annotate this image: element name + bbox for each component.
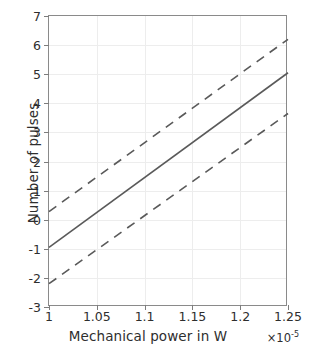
x-axis-multiplier: ×10-5: [267, 330, 299, 345]
data-lines: [49, 16, 288, 307]
x-axis-multiplier-exponent: -5: [291, 330, 299, 339]
x-axis-multiplier-base: ×10: [267, 331, 291, 345]
y-tick-label: 7: [33, 9, 41, 24]
x-tick-label: 1.25: [274, 309, 302, 324]
series-line-upper-confidence-bound: [49, 39, 288, 211]
y-tick-label: -2: [29, 270, 41, 285]
x-tick-label: 1.05: [83, 309, 111, 324]
y-tick-label: 0: [33, 212, 41, 227]
x-tick-label: 1.15: [178, 309, 206, 324]
plot-area: -3-2-101234567 11.051.11.151.21.25: [48, 15, 287, 306]
y-tick-label: 6: [33, 38, 41, 53]
y-tick-label: -1: [29, 241, 41, 256]
x-tick-label: 1: [45, 309, 53, 324]
x-tick-label: 1.1: [135, 309, 155, 324]
chart-figure: Number of pulses -3-2-101234567 11.051.1…: [0, 0, 309, 354]
series-line-fit: [49, 73, 288, 248]
y-tick-label: 4: [33, 96, 41, 111]
x-tick-label: 1.2: [230, 309, 250, 324]
series-line-lower-confidence-bound: [49, 113, 288, 283]
y-tick-label: -3: [29, 300, 41, 315]
y-tick-label: 1: [33, 183, 41, 198]
x-axis-title: Mechanical power in W: [48, 328, 248, 344]
y-tick-label: 5: [33, 67, 41, 82]
y-tick-label: 2: [33, 154, 41, 169]
y-tick-label: 3: [33, 125, 41, 140]
